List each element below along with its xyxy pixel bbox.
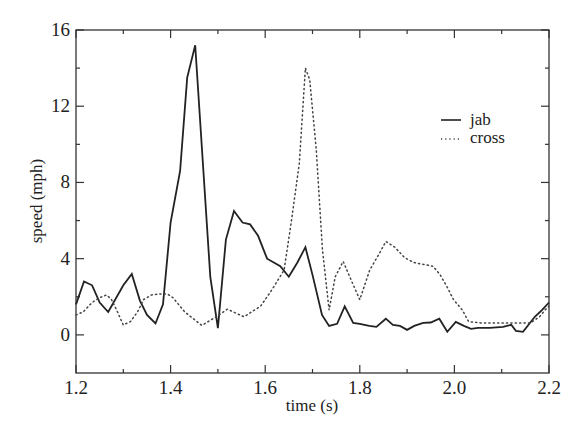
x-tick-label: 1.8 — [348, 377, 372, 398]
x-tick-label: 1.4 — [159, 377, 183, 398]
series-layer — [76, 45, 549, 332]
y-tick-label: 0 — [61, 324, 71, 345]
plot-frame — [76, 30, 549, 373]
x-tick-label: 1.2 — [64, 377, 88, 398]
x-tick-labels: 1.21.41.61.82.02.2 — [64, 377, 561, 398]
x-tick-label: 1.6 — [253, 377, 277, 398]
y-tick-label: 4 — [61, 248, 71, 269]
series-cross-line — [76, 68, 549, 325]
y-tick-label: 16 — [51, 19, 70, 40]
y-tick-label: 8 — [61, 171, 71, 192]
y-tick-labels: 0481216 — [51, 19, 71, 345]
x-axis-label: time (s) — [286, 396, 338, 415]
x-tick-label: 2.2 — [537, 377, 561, 398]
plot-border — [76, 30, 549, 373]
speed-time-chart: 1.21.41.61.82.02.2 0481216 time (s) spee… — [0, 0, 579, 444]
legend-label-cross: cross — [470, 128, 505, 147]
legend: jab cross — [441, 110, 505, 147]
y-tick-label: 12 — [51, 95, 70, 116]
x-tick-label: 2.0 — [443, 377, 467, 398]
series-jab-line — [76, 45, 549, 332]
axis-ticks — [76, 30, 549, 373]
legend-label-jab: jab — [469, 110, 491, 129]
y-axis-label: speed (mph) — [27, 159, 46, 244]
